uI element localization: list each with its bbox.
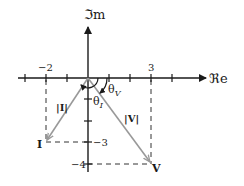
voltage-magnitude-label: |V| bbox=[124, 113, 139, 125]
voltage-phasor-label: V bbox=[151, 162, 161, 175]
tick-label-x-3: 3 bbox=[148, 62, 154, 73]
real-axis-label: ℜe bbox=[209, 71, 228, 86]
imaginary-axis-label: ℑm bbox=[84, 7, 105, 22]
phasor-diagram: ℑm ℜe −2 3 −3 −4 |I| |V| I V θV θI bbox=[0, 0, 244, 186]
current-phasor-label: I bbox=[37, 138, 42, 151]
current-magnitude-label: |I| bbox=[56, 102, 68, 114]
tick-label-y-neg4: −4 bbox=[71, 159, 86, 170]
tick-label-x-neg2: −2 bbox=[38, 62, 53, 73]
theta-v-label: θV bbox=[108, 83, 122, 98]
theta-v-arc bbox=[100, 78, 107, 93]
tick-label-y-neg3: −3 bbox=[93, 137, 108, 148]
